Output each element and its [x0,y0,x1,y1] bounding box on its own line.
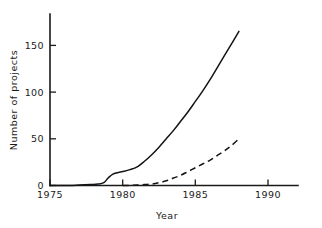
x-axis-title: Year [155,210,178,221]
x-tick-label-1990: 1990 [255,189,281,200]
y-axis-title: Number of projects [8,50,19,150]
line-chart-plot: 0 50 100 150 1975 1980 1985 1990 Year Nu… [0,0,322,228]
y-tick-label-150: 150 [25,40,44,51]
series-line-solid [50,31,239,185]
x-tick-label-1975: 1975 [37,189,63,200]
y-tick-label-100: 100 [25,87,44,98]
x-tick-label-1980: 1980 [110,189,136,200]
y-tick-label-50: 50 [31,133,44,144]
series-line-dashed [123,139,239,186]
chart-figure: 0 50 100 150 1975 1980 1985 1990 Year Nu… [0,0,322,228]
x-tick-label-1985: 1985 [182,189,208,200]
